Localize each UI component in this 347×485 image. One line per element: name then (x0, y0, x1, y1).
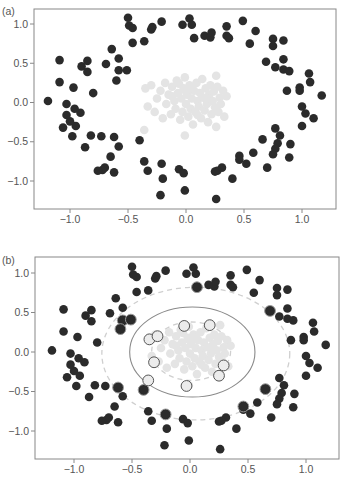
y-tick-label: 0.0 (13, 96, 28, 108)
outer-class-point (295, 86, 304, 95)
outer-class-point (160, 441, 169, 450)
outer-class-point (110, 168, 119, 177)
inner-class-point (147, 81, 156, 90)
outer-class-point (271, 124, 280, 133)
outer-class-point (207, 28, 216, 37)
outer-class-point (232, 424, 241, 433)
x-tick-label: 0.5 (237, 213, 252, 225)
x-tick-label: 1.0 (299, 463, 314, 475)
outer-class-point (48, 346, 57, 355)
outer-class-point (243, 266, 252, 275)
outer-class-point (289, 403, 298, 412)
outer-class-point (87, 317, 96, 326)
outer-class-point (228, 174, 237, 183)
outer-class-point (211, 277, 220, 286)
inner-class-point (163, 364, 172, 373)
outer-class-point (239, 17, 248, 26)
outer-class-point (182, 269, 191, 278)
inner-class-point (186, 337, 195, 346)
outer-class-point (102, 60, 111, 69)
outer-class-point (279, 55, 288, 64)
support-vector-inner (143, 375, 154, 386)
outer-class-point (135, 136, 144, 145)
inner-class-point (140, 126, 149, 135)
inner-class-point (143, 102, 152, 111)
outer-class-point (144, 286, 153, 295)
inner-class-point (182, 87, 191, 96)
panel-a: (a)1.00.50.0−0.5−1.0−1.0−0.50.00.51.0 (0, 0, 347, 240)
outer-class-point (74, 354, 83, 363)
outer-class-point (128, 24, 137, 33)
outer-class-point (299, 336, 308, 345)
outer-class-point (313, 364, 322, 373)
outer-class-point (271, 63, 280, 72)
outer-class-point (262, 57, 271, 66)
outer-class-point (283, 285, 292, 294)
x-tick-label: 1.0 (295, 213, 310, 225)
outer-class-point (273, 400, 282, 409)
inner-class-point (181, 131, 190, 140)
outer-class-point (123, 66, 132, 75)
outer-class-point (159, 174, 168, 183)
outer-class-point (68, 132, 77, 141)
inner-class-point (216, 321, 225, 330)
panel-label: (a) (2, 5, 15, 17)
outer-class-point (152, 272, 161, 281)
outer-class-point (305, 359, 314, 368)
outer-class-point (132, 273, 141, 282)
outer-class-point (258, 135, 267, 144)
outer-class-point (118, 392, 127, 401)
outer-class-point (62, 111, 71, 120)
y-tick-label: 0.5 (14, 306, 29, 318)
outer-class-point (306, 78, 315, 87)
inner-class-point (226, 341, 235, 350)
outer-class-point (280, 381, 289, 390)
inner-class-point (150, 108, 159, 117)
x-tick-label: 0.0 (183, 463, 198, 475)
outer-class-point (106, 309, 115, 318)
support-vector-inner (152, 331, 163, 342)
outer-class-point (215, 417, 224, 426)
outer-class-point (253, 398, 262, 407)
inner-class-point (176, 115, 185, 124)
inner-class-point (180, 365, 189, 374)
outer-class-point (225, 34, 234, 43)
support-vector-inner (214, 370, 225, 381)
outer-class-point (118, 303, 127, 312)
outer-class-point (156, 191, 165, 200)
inner-class-point (203, 94, 212, 103)
outer-class-point (140, 157, 149, 166)
x-tick-label: 0.0 (179, 213, 194, 225)
outer-class-point (114, 418, 123, 427)
outer-class-point (62, 100, 71, 109)
outer-class-point (59, 123, 68, 132)
support-vector-inner (179, 321, 190, 332)
support-vector-outer (260, 384, 271, 395)
inner-class-point (212, 72, 221, 81)
outer-class-point (190, 34, 199, 43)
x-tick-label: −0.5 (118, 213, 139, 225)
outer-class-point (97, 132, 106, 141)
y-tick-label: −0.5 (8, 385, 29, 397)
inner-class-point (222, 92, 231, 101)
outer-class-point (263, 163, 272, 172)
outer-class-point (148, 23, 157, 32)
inner-class-point (193, 370, 202, 379)
inner-class-point (212, 123, 221, 132)
outer-class-point (91, 381, 100, 390)
outer-class-point (55, 56, 64, 65)
outer-class-point (255, 276, 264, 285)
outer-class-point (111, 294, 120, 303)
outer-class-point (83, 57, 92, 66)
support-vector-outer (113, 382, 124, 393)
outer-class-point (140, 37, 149, 46)
outer-class-point (286, 140, 295, 149)
outer-class-point (216, 445, 225, 454)
panel-label: (b) (2, 254, 15, 266)
outer-class-point (246, 39, 255, 48)
outer-class-point (124, 13, 133, 22)
outer-class-point (317, 91, 326, 100)
y-tick-label: −1.0 (7, 175, 28, 187)
outer-class-point (212, 195, 221, 204)
outer-class-point (229, 283, 238, 292)
